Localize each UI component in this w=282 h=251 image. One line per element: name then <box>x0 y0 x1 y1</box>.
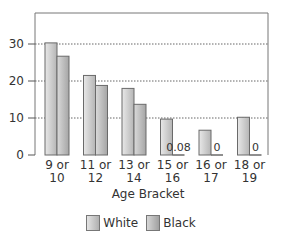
svg-text:13 or: 13 or <box>118 158 149 172</box>
legend-label-white: White <box>103 216 138 230</box>
svg-text:10: 10 <box>9 111 24 125</box>
svg-text:17: 17 <box>203 171 218 185</box>
svg-text:15 or: 15 or <box>157 158 188 172</box>
svg-text:10: 10 <box>49 171 64 185</box>
y-axis-ticks: 0102030 <box>9 37 35 162</box>
svg-text:16: 16 <box>165 171 180 185</box>
svg-text:20: 20 <box>9 74 24 88</box>
svg-text:12: 12 <box>88 171 103 185</box>
black-swatch-icon <box>146 215 160 231</box>
svg-text:0: 0 <box>214 141 221 154</box>
bar-chart: 0.0800 0102030 9 or1011 or1213 or1415 or… <box>0 0 282 251</box>
legend-label-black: Black <box>163 216 195 230</box>
svg-text:30: 30 <box>9 37 24 51</box>
legend-item-white: White <box>86 215 138 231</box>
svg-text:9 or: 9 or <box>45 158 69 172</box>
bars: 0.0800 <box>45 43 262 155</box>
gridlines <box>35 44 268 118</box>
svg-text:0.08: 0.08 <box>166 141 191 154</box>
svg-text:14: 14 <box>126 171 141 185</box>
svg-text:18 or: 18 or <box>234 158 265 172</box>
plot-frame <box>35 13 268 155</box>
svg-text:0: 0 <box>252 141 259 154</box>
white-swatch-icon <box>86 215 100 231</box>
svg-text:0: 0 <box>16 148 24 162</box>
legend: White Black <box>0 215 282 231</box>
x-axis-title: Age Bracket <box>112 187 185 201</box>
svg-text:19: 19 <box>242 171 257 185</box>
legend-item-black: Black <box>146 215 195 231</box>
x-axis-labels: 9 or1011 or1213 or1415 or1616 or1718 or1… <box>45 158 265 185</box>
svg-text:11 or: 11 or <box>80 158 111 172</box>
svg-text:16 or: 16 or <box>195 158 226 172</box>
